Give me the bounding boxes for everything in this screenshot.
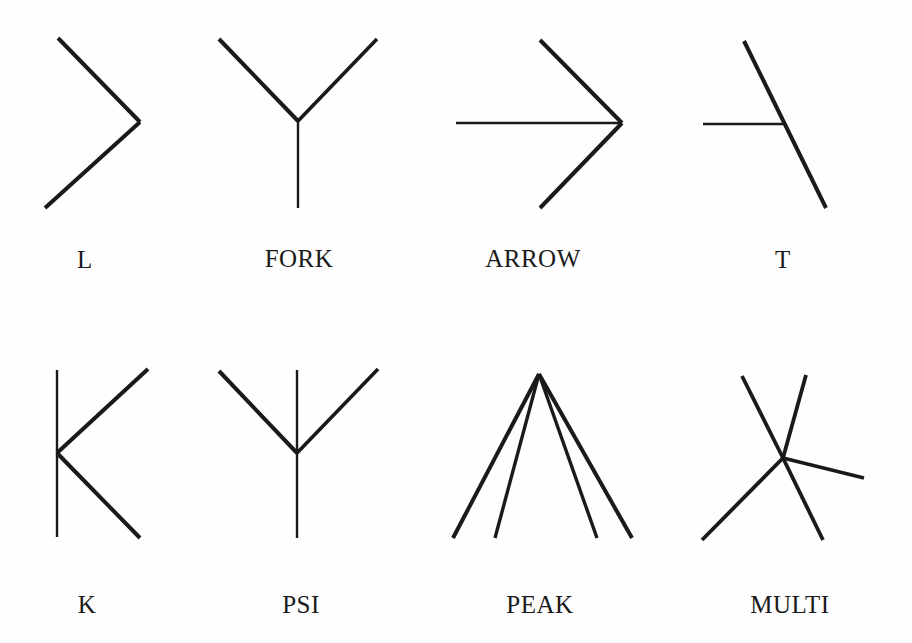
junction-branch-line [702, 458, 783, 540]
junction-branch-line [219, 39, 298, 121]
junction-branch-line [540, 123, 622, 208]
junction-label-multi: MULTI [750, 592, 829, 617]
junction-branch-line [297, 369, 378, 453]
junction-branch-line [783, 375, 806, 458]
junction-figure-peak [453, 374, 632, 538]
junction-branch-line [219, 371, 297, 453]
junction-figure-fork [219, 39, 377, 208]
junction-branch-line [742, 376, 783, 458]
junction-branch-line [57, 369, 148, 453]
junction-label-psi: PSI [282, 592, 320, 617]
junction-branch-line [539, 374, 597, 538]
junction-branch-line [45, 122, 140, 208]
junction-branch-line [783, 458, 864, 478]
junction-branch-line [540, 40, 622, 123]
junction-branch-line [783, 458, 823, 540]
junction-branch-line [539, 374, 632, 538]
junction-figure-t [703, 41, 826, 208]
junction-figure-l [45, 38, 140, 208]
junction-label-arrow: ARROW [485, 246, 581, 271]
junction-branch-line [495, 374, 539, 538]
junction-label-l: L [77, 247, 93, 272]
junction-label-peak: PEAK [506, 592, 573, 617]
junction-label-fork: FORK [265, 246, 334, 271]
junction-label-k: K [78, 592, 97, 617]
junction-branch-line [58, 38, 140, 122]
junction-branch-line [453, 374, 539, 538]
junction-label-t: T [775, 247, 791, 272]
junction-line-drawings [0, 0, 912, 643]
junction-figure-k [57, 369, 148, 538]
junction-branch-line [298, 39, 377, 121]
junction-branch-line [744, 41, 826, 208]
junction-figure-psi [219, 369, 378, 538]
junction-branch-line [57, 453, 140, 538]
junction-figure-arrow [456, 40, 622, 208]
junction-figure-multi [702, 375, 864, 540]
junction-types-figure: LFORKARROWTKPSIPEAKMULTI [0, 0, 912, 643]
